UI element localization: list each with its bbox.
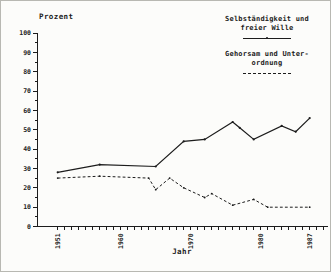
data-point [204,197,206,199]
series-gehorsam [57,175,311,208]
y-tick-label: 80 [23,68,31,76]
data-point [232,121,234,123]
data-point [204,138,206,140]
chart-page: 0102030405060708090100195119601970198019… [0,0,331,272]
y-tick-label: 100 [19,29,31,37]
y-tick-label: 50 [23,126,31,134]
legend-dashed-line-sample [243,73,291,74]
data-point [295,131,297,133]
y-tick-label: 30 [23,165,31,173]
y-tick-label: 90 [23,49,31,57]
legend-label-selbstaendigkeit: Selbständigkeit und freier Wille [213,15,321,33]
y-axis-title: Prozent [39,12,73,21]
data-point [148,177,150,179]
data-point [253,138,255,140]
y-tick-label: 20 [23,184,31,192]
y-tick-label: 40 [23,145,31,153]
x-tick-label: 1980 [257,233,265,249]
chart-legend: Selbständigkeit und freier Wille Gehorsa… [213,15,321,74]
legend-solid-line-sample [243,38,291,39]
legend-entry-gehorsam: Gehorsam und Unter- ordnung [213,50,321,74]
legend-entry-selbstaendigkeit: Selbständigkeit und freier Wille [213,15,321,39]
data-point [57,177,59,179]
data-point [281,125,283,127]
legend-marker-dot [266,37,268,39]
data-point [183,187,185,189]
series-line-0 [58,118,310,172]
series-selbstaendigkeit [57,117,311,173]
data-point [267,206,269,208]
x-tick-label: 1951 [54,233,62,249]
legend-label-gehorsam: Gehorsam und Unter- ordnung [213,50,321,68]
y-tick-label: 70 [23,87,31,95]
data-point [57,171,59,173]
y-tick-label: 60 [23,107,31,115]
data-point [99,175,101,177]
data-point [309,117,311,119]
x-axis-ticks: 19511960197019801987 [54,227,324,250]
data-point [309,206,311,208]
y-tick-label: 0 [27,223,31,231]
y-axis-ticks: 0102030405060708090100 [19,29,37,231]
data-point [169,177,171,179]
series-line-1 [58,176,310,207]
data-point [211,193,213,195]
data-point [232,204,234,206]
data-point [155,189,157,191]
x-axis-title: Jahr [166,247,198,256]
x-tick-label: 1987 [306,233,314,249]
data-point [239,127,241,129]
data-point [253,199,255,201]
data-point [155,165,157,167]
y-tick-label: 10 [23,203,31,211]
data-point [99,164,101,166]
data-point [183,140,185,142]
x-tick-label: 1960 [117,233,125,249]
